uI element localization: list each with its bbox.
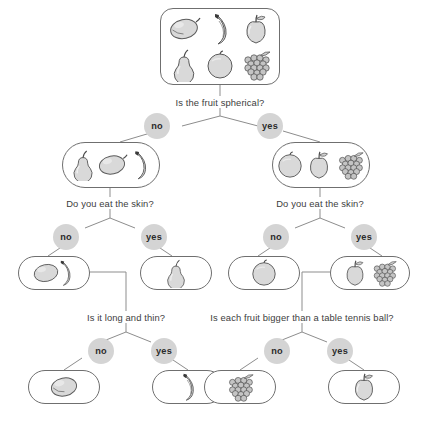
decision-tree-diagram: Is the fruit spherical? no yes Do you ea… xyxy=(0,0,429,422)
answer-no-long-thin: no xyxy=(88,338,114,364)
node-bigger-no xyxy=(204,370,276,404)
node-skin-no-left xyxy=(18,256,90,290)
question-bigger-ball: Is each fruit bigger than a table tennis… xyxy=(176,312,428,323)
orange-icon xyxy=(250,259,278,287)
node-skin-no-right xyxy=(228,256,300,290)
question-skin-right: Do you eat the skin? xyxy=(245,198,395,209)
node-bigger-yes xyxy=(328,370,400,404)
banana-icon xyxy=(128,149,152,181)
answer-label: no xyxy=(60,232,72,242)
apple-icon xyxy=(349,372,379,402)
pear-icon xyxy=(164,258,188,288)
answer-yes-long-thin: yes xyxy=(151,338,177,364)
answer-yes-bigger-ball: yes xyxy=(327,338,353,364)
answer-label: no xyxy=(270,232,282,242)
answer-yes-skin-left: yes xyxy=(141,224,167,250)
node-skin-yes-left xyxy=(140,256,212,290)
orange-icon xyxy=(276,151,304,179)
grapes-icon xyxy=(334,150,366,180)
answer-label: yes xyxy=(356,232,372,242)
grapes-icon xyxy=(224,372,256,402)
node-skin-yes-right xyxy=(330,256,410,290)
answer-label: no xyxy=(95,346,107,356)
grapes-icon xyxy=(369,259,399,287)
answer-no-root: no xyxy=(144,113,170,139)
apple-icon xyxy=(341,259,369,287)
pear-icon xyxy=(70,149,96,181)
answer-no-skin-right: no xyxy=(263,224,289,250)
apple-icon xyxy=(304,150,334,180)
banana-icon xyxy=(176,372,200,402)
answer-label: yes xyxy=(332,346,348,356)
answer-yes-root: yes xyxy=(257,113,283,139)
answer-no-skin-left: no xyxy=(53,224,79,250)
banana-icon xyxy=(207,12,233,46)
answer-yes-skin-right: yes xyxy=(351,224,377,250)
answer-no-bigger-ball: no xyxy=(264,338,290,364)
apple-icon xyxy=(240,13,272,45)
answer-label: yes xyxy=(262,121,278,131)
node-long-thin-no xyxy=(28,370,100,404)
pear-icon xyxy=(170,48,198,82)
answer-label: yes xyxy=(146,232,162,242)
grapes-icon xyxy=(239,49,273,81)
answer-label: no xyxy=(271,346,283,356)
node-root xyxy=(160,8,280,85)
lemon-icon xyxy=(167,16,201,42)
node-not-spherical xyxy=(62,142,160,188)
lemon-icon xyxy=(96,152,128,178)
answer-label: no xyxy=(151,121,163,131)
banana-icon xyxy=(54,259,76,287)
question-skin-left: Do you eat the skin? xyxy=(35,198,185,209)
question-long-thin: Is it long and thin? xyxy=(56,312,196,323)
answer-label: yes xyxy=(156,346,172,356)
node-spherical xyxy=(272,142,370,188)
lemon-icon xyxy=(48,374,80,400)
question-root: Is the fruit spherical? xyxy=(120,97,320,108)
orange-icon xyxy=(205,50,235,80)
